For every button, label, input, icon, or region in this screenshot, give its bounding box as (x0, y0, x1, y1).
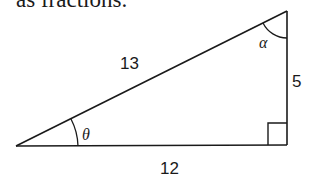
hypotenuse-label: 13 (120, 54, 139, 73)
side-hypotenuse-13 (16, 11, 287, 146)
vertical-leg-label: 5 (292, 72, 301, 91)
right-angle-marker (268, 123, 287, 145)
theta-arc (71, 119, 78, 146)
side-horizontal-12 (16, 145, 287, 146)
alpha-label: α (259, 34, 268, 51)
horizontal-leg-label: 12 (160, 159, 179, 178)
right-triangle-diagram: 13 5 12 θ α (0, 0, 314, 182)
theta-label: θ (82, 126, 90, 143)
